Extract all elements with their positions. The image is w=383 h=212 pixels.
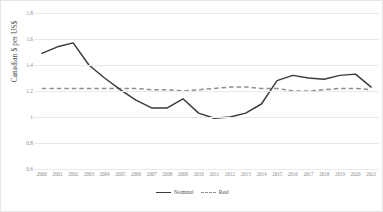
x-axis-tick: 2008 bbox=[160, 171, 176, 183]
x-axis-tick: 2010 bbox=[191, 171, 207, 183]
x-axis-tick: 2013 bbox=[238, 171, 254, 183]
plot-area bbox=[34, 13, 379, 169]
x-axis-tick: 2015 bbox=[269, 171, 285, 183]
gridline bbox=[34, 13, 379, 14]
chart-container: Canadian $ per US$ 1.81.61.41.210.80.6 2… bbox=[0, 0, 383, 212]
x-axis-tick-labels: 2000200120022003200420052006200720082009… bbox=[34, 171, 379, 183]
x-axis-tick: 2005 bbox=[112, 171, 128, 183]
y-axis-tick: 1.2 bbox=[15, 88, 33, 94]
x-axis-tick: 2020 bbox=[348, 171, 364, 183]
legend-label-real: Real bbox=[219, 189, 229, 195]
x-axis-tick: 2019 bbox=[332, 171, 348, 183]
x-axis-tick: 2006 bbox=[128, 171, 144, 183]
x-axis-tick: 2021 bbox=[363, 171, 379, 183]
y-axis-tick: 0.6 bbox=[15, 166, 33, 172]
x-axis-tick: 2012 bbox=[222, 171, 238, 183]
gridline bbox=[34, 169, 379, 170]
y-axis-tick: 0.8 bbox=[15, 140, 33, 146]
y-axis-tick: 1.6 bbox=[15, 36, 33, 42]
legend-item-nominal[interactable]: Nominal bbox=[156, 189, 194, 195]
y-axis-tick: 1.8 bbox=[15, 10, 33, 16]
x-axis-tick: 2018 bbox=[316, 171, 332, 183]
legend-label-nominal: Nominal bbox=[174, 189, 194, 195]
chart-legend: NominalReal bbox=[1, 189, 383, 195]
x-axis-tick: 2017 bbox=[301, 171, 317, 183]
y-axis-tick: 1 bbox=[15, 114, 33, 120]
gridline bbox=[34, 117, 379, 118]
x-axis-tick: 2003 bbox=[81, 171, 97, 183]
gridline bbox=[34, 39, 379, 40]
x-axis-tick: 2004 bbox=[97, 171, 113, 183]
legend-item-real[interactable]: Real bbox=[201, 189, 229, 195]
x-axis-tick: 2009 bbox=[175, 171, 191, 183]
gridline bbox=[34, 65, 379, 66]
x-axis-tick: 2016 bbox=[285, 171, 301, 183]
x-axis-tick: 2007 bbox=[144, 171, 160, 183]
x-axis-tick: 2002 bbox=[65, 171, 81, 183]
x-axis-tick: 2001 bbox=[50, 171, 66, 183]
x-axis-tick: 2014 bbox=[254, 171, 270, 183]
y-axis-tick: 1.4 bbox=[15, 62, 33, 68]
line-nominal bbox=[42, 43, 371, 118]
legend-swatch-real bbox=[201, 192, 216, 193]
gridline bbox=[34, 91, 379, 92]
gridline bbox=[34, 143, 379, 144]
x-axis-tick: 2000 bbox=[34, 171, 50, 183]
x-axis-tick: 2011 bbox=[207, 171, 223, 183]
legend-swatch-nominal bbox=[156, 192, 171, 193]
